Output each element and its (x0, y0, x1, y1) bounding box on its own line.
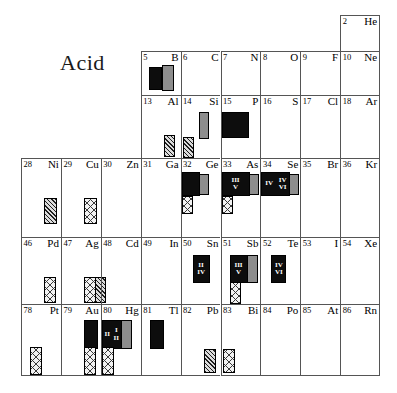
roman-numeral-stack: IV (265, 180, 273, 188)
atomic-number: 48 (103, 238, 112, 248)
element-symbol: F (332, 52, 338, 63)
element-symbol: Hg (125, 305, 138, 316)
element-cell-se[interactable]: 34SeIVIVVI (260, 158, 300, 237)
atomic-number: 13 (143, 96, 152, 106)
atomic-number: 84 (263, 305, 272, 315)
oxidation-bar-stipple (289, 174, 299, 195)
oxidation-bar-hatch (164, 135, 175, 157)
element-cell-sb[interactable]: 51SbIIIV (221, 237, 261, 304)
atomic-number: 85 (303, 305, 312, 315)
atomic-number: 6 (183, 52, 187, 62)
oxidation-bar-cross (222, 196, 233, 214)
atomic-number: 7 (223, 52, 227, 62)
element-symbol: Al (168, 96, 179, 107)
oxidation-bar-black: IIIV (222, 172, 250, 196)
element-cell-pb[interactable]: 82Pb (181, 304, 221, 376)
element-cell-in[interactable]: 49In (141, 237, 181, 304)
element-cell-pd[interactable]: 46Pd (21, 237, 61, 304)
atomic-number: 82 (183, 305, 192, 315)
element-cell-i[interactable]: 53I (300, 237, 340, 304)
atomic-number: 86 (343, 305, 352, 315)
element-cell-c[interactable]: 6C (181, 51, 221, 95)
element-cell-he[interactable]: 2He (340, 15, 380, 51)
oxidation-bar-stipple (199, 112, 209, 139)
atomic-number: 80 (103, 305, 112, 315)
element-cell-ne[interactable]: 10Ne (340, 51, 380, 95)
bar-group (142, 316, 181, 386)
element-cell-n[interactable]: 7N (221, 51, 261, 95)
element-symbol: Pt (50, 305, 59, 316)
element-cell-ge[interactable]: 32Ge (181, 158, 221, 237)
element-cell-zn[interactable]: 30Zn (101, 158, 141, 237)
element-cell-kr[interactable]: 36Kr (340, 158, 380, 237)
element-cell-b[interactable]: 5B (141, 51, 181, 95)
element-cell-au[interactable]: 79Au (61, 304, 101, 376)
atomic-number: 8 (263, 52, 267, 62)
element-cell-o[interactable]: 8O (260, 51, 300, 95)
atomic-number: 35 (303, 159, 312, 169)
roman-numeral-stack: IIIV (197, 262, 205, 277)
element-cell-xe[interactable]: 54Xe (340, 237, 380, 304)
element-symbol: Kr (365, 159, 377, 170)
element-cell-p[interactable]: 15P (221, 95, 261, 158)
element-cell-po[interactable]: 84Po (260, 304, 300, 376)
oxidation-bar-stipple (121, 320, 132, 349)
element-symbol: Sn (207, 238, 219, 249)
atomic-number: 54 (343, 238, 352, 248)
element-symbol: He (364, 16, 377, 27)
element-cell-ga[interactable]: 31Ga (141, 158, 181, 237)
element-symbol: N (250, 52, 258, 63)
element-cell-cl[interactable]: 17Cl (300, 95, 340, 158)
element-cell-ni[interactable]: 28Ni (21, 158, 61, 237)
oxidation-bar-hatch (44, 198, 57, 224)
bar-group (222, 316, 261, 386)
element-cell-ar[interactable]: 18Ar (340, 95, 380, 158)
element-symbol: Cl (328, 96, 338, 107)
element-cell-ag[interactable]: 47Ag (61, 237, 101, 304)
element-symbol: I (335, 238, 339, 249)
element-symbol: Pb (207, 305, 219, 316)
element-symbol: Ni (48, 159, 59, 170)
element-cell-te[interactable]: 52TeIVVI (260, 237, 300, 304)
element-symbol: Ar (365, 96, 377, 107)
atomic-number: 34 (263, 159, 272, 169)
bar-group (182, 316, 221, 386)
element-cell-as[interactable]: 33AsIIIV (221, 158, 261, 237)
atomic-number: 29 (63, 159, 72, 169)
element-cell-s[interactable]: 16S (260, 95, 300, 158)
element-cell-sn[interactable]: 50SnIIIV (181, 237, 221, 304)
atomic-number: 83 (223, 305, 232, 315)
oxidation-bar-cross (223, 349, 235, 373)
element-cell-cd[interactable]: 48Cd (101, 237, 141, 304)
element-cell-at[interactable]: 85At (300, 304, 340, 376)
oxidation-bar-cross (30, 347, 42, 375)
atomic-number: 32 (183, 159, 192, 169)
element-cell-rn[interactable]: 86Rn (340, 304, 380, 376)
atomic-number: 31 (143, 159, 152, 169)
oxidation-bar-cross (182, 196, 193, 214)
atomic-number: 36 (343, 159, 352, 169)
element-cell-f[interactable]: 9F (300, 51, 340, 95)
roman-numeral-stack: III (114, 327, 119, 342)
atomic-number: 33 (223, 159, 232, 169)
element-symbol: B (171, 52, 178, 63)
element-cell-si[interactable]: 14Si (181, 95, 221, 158)
roman-numeral-stack: II (105, 331, 110, 339)
element-cell-al[interactable]: 13Al (141, 95, 181, 158)
element-symbol: Po (287, 305, 299, 316)
element-cell-pt[interactable]: 78Pt (21, 304, 61, 376)
element-symbol: Pd (47, 238, 59, 249)
element-cell-bi[interactable]: 83Bi (221, 304, 261, 376)
element-symbol: S (292, 96, 298, 107)
atomic-number: 81 (143, 305, 152, 315)
element-cell-cu[interactable]: 29Cu (61, 158, 101, 237)
atomic-number: 5 (143, 52, 147, 62)
bar-group (22, 316, 61, 386)
element-cell-br[interactable]: 35Br (300, 158, 340, 237)
element-cell-tl[interactable]: 81Tl (141, 304, 181, 376)
oxidation-bar-stipple (199, 174, 209, 195)
element-cell-hg[interactable]: 80HgIIIII (101, 304, 141, 376)
oxidation-bar-black: IIIII (102, 320, 122, 349)
element-symbol: Cu (86, 159, 99, 170)
oxidation-bar-black (149, 67, 162, 90)
